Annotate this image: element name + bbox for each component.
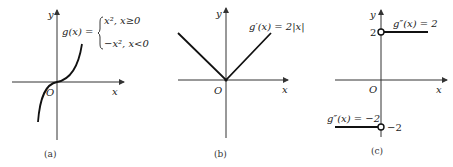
tick-2: 2 <box>370 27 376 38</box>
g-curve <box>38 44 82 122</box>
lower-label: g″(x) = −2 <box>327 113 380 124</box>
caption-a: (a) <box>44 149 56 159</box>
caption-b: (b) <box>214 149 227 159</box>
origin-label: O <box>46 87 54 98</box>
y-axis-label: y <box>215 8 222 19</box>
origin-label: O <box>369 84 377 95</box>
panel-c: y x O g″(x) = 2 g″(x) = −2 2 −2 (c) <box>327 9 447 156</box>
x-axis-label: x <box>112 86 118 97</box>
figure-canvas: y x O g(x) = x², x≥0 −x², x<0 (a) y x O … <box>0 0 453 167</box>
open-circle-lower <box>378 124 384 130</box>
function-label: g′(x) = 2|x| <box>249 21 305 33</box>
x-axis-label: x <box>282 84 288 95</box>
upper-label: g″(x) = 2 <box>393 18 438 29</box>
open-circle-upper <box>378 29 384 35</box>
y-axis-label: y <box>47 9 54 20</box>
caption-c: (c) <box>371 146 383 156</box>
origin-label: O <box>214 85 222 96</box>
vertex-dot <box>224 78 227 81</box>
tick-neg-2: −2 <box>387 122 402 133</box>
piece-2: −x², x<0 <box>104 38 149 49</box>
function-name: g(x) = <box>62 26 93 37</box>
panel-a: y x O g(x) = x², x≥0 −x², x<0 (a) <box>12 9 149 159</box>
piece-1: x², x≥0 <box>104 15 141 26</box>
brace-icon <box>98 17 103 49</box>
abs-curve <box>178 33 271 80</box>
panel-b: y x O g′(x) = 2|x| (b) <box>178 8 305 159</box>
x-axis-label: x <box>436 84 442 95</box>
y-axis-label: y <box>369 9 376 20</box>
